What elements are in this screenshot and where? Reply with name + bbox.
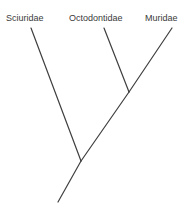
branch-muridae xyxy=(129,28,172,92)
branch-crown-stem xyxy=(81,92,129,161)
branch-group xyxy=(31,28,172,202)
cladogram-canvas xyxy=(0,0,191,207)
taxon-label-octodontidae: Octodontidae xyxy=(69,13,123,23)
taxon-label-sciuridae: Sciuridae xyxy=(6,13,44,23)
branch-sciuridae xyxy=(31,28,81,161)
cladogram-figure: Sciuridae Octodontidae Muridae xyxy=(0,0,191,207)
branch-octodontidae xyxy=(104,28,129,92)
taxon-label-muridae: Muridae xyxy=(145,13,178,23)
branch-root-stem xyxy=(58,161,81,202)
